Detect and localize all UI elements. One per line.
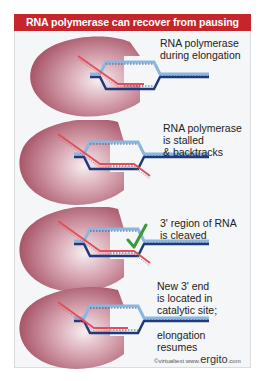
stage-caption: New 3' end is located in catalytic site; — [157, 280, 217, 316]
polymerase-enzyme — [19, 207, 124, 292]
stage-caption: RNA polymerase during elongation — [160, 37, 241, 61]
stage-caption-continued: elongation resumes — [157, 329, 205, 353]
site-name: ergito — [200, 353, 228, 365]
stage-elongation: RNA polymerase during elongation — [14, 34, 251, 119]
polymerase-enzyme — [19, 120, 124, 205]
polymerase-enzyme — [30, 37, 140, 117]
stage-caption: RNA polymerase is stalled & backtracks — [163, 122, 242, 158]
figure-title: RNA polymerase can recover from pausing — [14, 14, 251, 31]
site-suffix: .com — [228, 358, 241, 364]
copyright-footer: ©virtualtext www.ergito.com — [154, 353, 241, 365]
stage-stalled: RNA polymerase is stalled & backtracks — [14, 120, 251, 205]
stage-caption: 3' region of RNA is cleaved — [160, 217, 237, 241]
copyright-text: ©virtualtext — [154, 358, 184, 364]
site-prefix: www. — [186, 358, 200, 364]
